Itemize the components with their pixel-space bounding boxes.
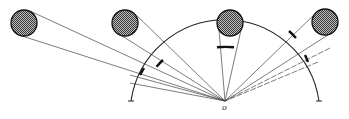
- body-1-icon: [11, 10, 37, 36]
- angular-size-diagram: o: [0, 0, 349, 119]
- body-3-icon: [217, 10, 243, 36]
- angular-size-segments: [140, 31, 308, 75]
- body-2-icon: [112, 10, 138, 36]
- center-label: o: [222, 103, 227, 112]
- body-4-icon: [312, 9, 338, 35]
- sight-lines: [19, 11, 331, 101]
- diagram-canvas: o: [0, 0, 349, 119]
